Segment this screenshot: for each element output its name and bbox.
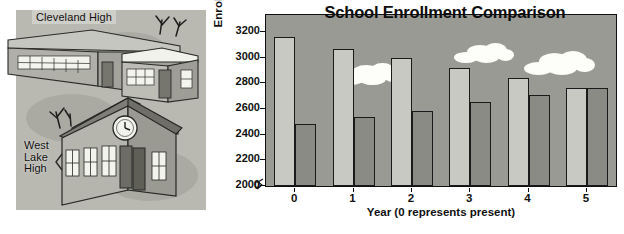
y-tick-label: 3200	[218, 24, 260, 36]
y-tick-label: 2800	[218, 75, 260, 87]
y-axis-ticks: 02000220024002600280030003200	[216, 0, 260, 234]
bar-west-lake-high-year-5	[587, 88, 608, 186]
cleveland-high-label: Cleveland High	[32, 10, 116, 24]
y-tick-label: 2400	[218, 127, 260, 139]
bar-west-lake-high-year-3	[470, 102, 491, 186]
enrollment-bar-chart: Enrollment 02000220024002600280030003200…	[216, 0, 624, 234]
enrollment-figure: Cleveland High West Lake High Enrollment…	[0, 0, 624, 234]
west-lake-high-label: West Lake High	[24, 140, 49, 175]
x-tick-label: 5	[571, 192, 601, 204]
x-axis-ticks: 012345	[265, 188, 617, 204]
bar-cleveland-high-year-4	[508, 78, 529, 186]
x-tick-label: 0	[279, 192, 309, 204]
x-axis-title: Year (0 represents present)	[265, 206, 617, 218]
cloud-icon	[454, 43, 512, 63]
bar-cleveland-high-year-1	[333, 49, 354, 186]
schools-artwork	[0, 0, 216, 234]
x-tick-label: 2	[396, 192, 426, 204]
y-tick-label: 3000	[218, 50, 260, 62]
plot-inner	[266, 15, 616, 186]
y-tick-label: 2600	[218, 101, 260, 113]
plot-area	[265, 14, 617, 187]
bar-cleveland-high-year-0	[274, 37, 295, 186]
x-tick-label: 1	[338, 192, 368, 204]
schools-illustration: Cleveland High West Lake High	[0, 0, 216, 234]
chart-title: School Enrollment Comparison	[216, 3, 624, 22]
bar-west-lake-high-year-0	[295, 124, 316, 186]
y-tick-label: 2200	[218, 152, 260, 164]
cloud-icon	[524, 51, 592, 75]
bar-cleveland-high-year-2	[391, 58, 412, 186]
bar-west-lake-high-year-4	[529, 95, 550, 186]
y-tick-label: 2000	[218, 178, 260, 190]
bar-west-lake-high-year-1	[354, 117, 375, 186]
x-tick-label: 3	[454, 192, 484, 204]
bar-cleveland-high-year-3	[449, 68, 470, 186]
x-tick-label: 4	[513, 192, 543, 204]
bar-cleveland-high-year-5	[566, 88, 587, 186]
bar-west-lake-high-year-2	[412, 111, 433, 186]
